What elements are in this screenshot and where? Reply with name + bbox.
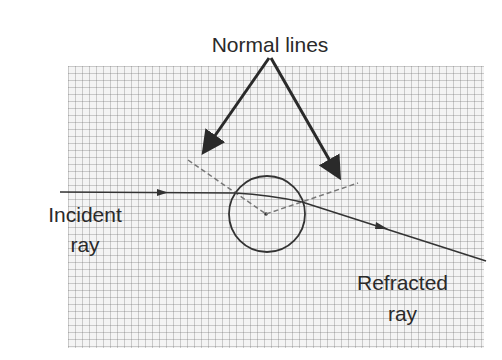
internal-ray	[235, 193, 302, 202]
refracted-ray-label-1: Refracted	[345, 271, 460, 295]
incident-ray	[60, 192, 235, 193]
incident-ray-label-1: Incident	[30, 203, 140, 227]
incident-arrowhead	[157, 189, 168, 196]
refracted-arrowhead	[375, 222, 388, 229]
normal-line-left	[188, 160, 266, 214]
arrow-to-left-normal	[205, 58, 269, 150]
refracted-ray	[302, 202, 486, 261]
refracted-ray-label-2: ray	[345, 302, 460, 326]
refraction-diagram: Normal lines Incident ray Refracted ray	[0, 0, 502, 360]
arrow-to-right-normal	[271, 58, 338, 175]
incident-ray-label-2: ray	[30, 233, 140, 257]
normal-lines-label: Normal lines	[195, 33, 345, 57]
